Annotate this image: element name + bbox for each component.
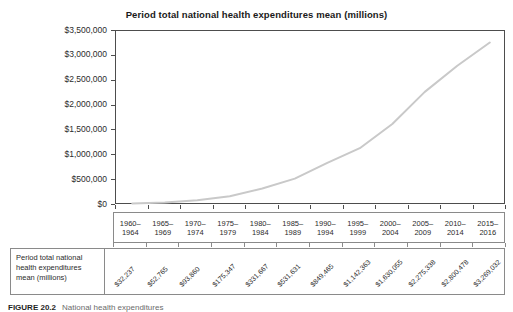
- category-column-tick: [309, 243, 310, 247]
- chart-figure: Period total national health expenditure…: [0, 0, 513, 312]
- plot-area: [115, 30, 505, 204]
- x-axis-tick: [343, 205, 344, 209]
- y-axis-tick: [111, 55, 115, 56]
- x-axis-category-label: 1975–1979: [212, 213, 245, 242]
- y-axis-tick-label: $3,000,000: [29, 50, 107, 59]
- y-axis-tick: [111, 105, 115, 106]
- x-axis-category-label: 1965–1969: [147, 213, 180, 242]
- x-axis-category-label: 1980–1984: [244, 213, 277, 242]
- y-axis-tick: [111, 179, 115, 180]
- y-axis-tick: [111, 154, 115, 155]
- category-column-tick: [407, 243, 408, 247]
- x-axis-tick: [245, 205, 246, 209]
- y-axis-tick: [111, 129, 115, 130]
- y-axis-tick-label: $2,500,000: [29, 75, 107, 84]
- category-column-tick: [374, 243, 375, 247]
- figure-caption: FIGURE 20.2National health expenditures: [8, 303, 163, 312]
- x-axis-category-row: 1960–19641965–19691970–19741975–19791980…: [113, 212, 505, 243]
- x-axis-category-label: 1985–1989: [277, 213, 310, 242]
- y-axis-tick-label: $0: [29, 200, 107, 209]
- x-axis-category-label: 1960–1964: [114, 213, 147, 242]
- x-axis-tick: [375, 205, 376, 209]
- x-axis-category-label: 1970–1974: [179, 213, 212, 242]
- category-column-tick: [244, 243, 245, 247]
- category-column-tick: [211, 243, 212, 247]
- line-series: [116, 31, 506, 205]
- x-axis-tick: [505, 205, 506, 209]
- y-axis-tick-label: $1,500,000: [29, 125, 107, 134]
- category-column-tick: [505, 243, 506, 247]
- y-axis-tick-label: $3,500,000: [29, 26, 107, 35]
- x-axis-tick: [473, 205, 474, 209]
- category-column-tick: [472, 243, 473, 247]
- category-column-tick: [276, 243, 277, 247]
- y-axis-tick-label: $1,000,000: [29, 150, 107, 159]
- y-axis-tick: [111, 30, 115, 31]
- category-column-tick: [342, 243, 343, 247]
- table-row-label: Period total national health expenditure…: [10, 248, 105, 295]
- chart-title: Period total national health expenditure…: [0, 9, 513, 20]
- x-axis-tick: [148, 205, 149, 209]
- category-column-tick: [146, 243, 147, 247]
- x-axis-tick: [115, 205, 116, 209]
- x-axis-tick: [408, 205, 409, 209]
- y-axis-tick-label: $500,000: [29, 175, 107, 184]
- x-axis-tick: [213, 205, 214, 209]
- category-column-tick: [178, 243, 179, 247]
- x-axis-category-label: 1990–1994: [309, 213, 342, 242]
- x-axis-category-label: 1995–1999: [342, 213, 375, 242]
- x-axis-category-label: 2015–2016: [472, 213, 505, 242]
- x-axis-tick: [310, 205, 311, 209]
- category-column-tick: [440, 243, 441, 247]
- x-axis-tick: [278, 205, 279, 209]
- y-axis-tick: [111, 80, 115, 81]
- y-axis-tick-label: $2,000,000: [29, 100, 107, 109]
- figure-caption-number: FIGURE 20.2: [8, 303, 56, 312]
- figure-caption-text: National health expenditures: [62, 303, 163, 312]
- x-axis-category-label: 2005–2009: [407, 213, 440, 242]
- x-axis-tick: [440, 205, 441, 209]
- x-axis-category-label: 2010–2014: [439, 213, 472, 242]
- x-axis-category-label: 2000–2004: [374, 213, 407, 242]
- category-column-tick: [113, 243, 114, 247]
- x-axis-tick: [180, 205, 181, 209]
